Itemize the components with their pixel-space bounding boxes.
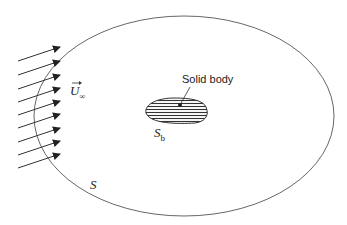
free-stream-subscript: ∞ xyxy=(79,92,85,101)
solid-body-label: Solid body xyxy=(182,73,233,85)
body-surface-subscript: b xyxy=(161,133,166,143)
free-stream-arrows xyxy=(18,47,60,168)
diagram-canvas xyxy=(0,0,347,225)
control-surface-label: S xyxy=(90,177,97,193)
free-stream-symbol: U xyxy=(70,83,79,98)
free-stream-velocity-label: U∞ xyxy=(70,83,85,101)
body-surface-label: Sb xyxy=(154,125,165,143)
solid-body-shape xyxy=(146,98,207,123)
